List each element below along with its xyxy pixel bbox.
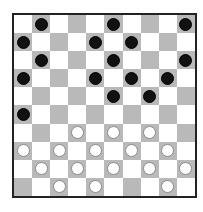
board-square-r0c9[interactable] [177, 15, 195, 33]
black-piece[interactable] [125, 36, 138, 49]
board-square-r2c4 [86, 51, 104, 69]
white-piece[interactable] [143, 162, 156, 175]
board-square-r7c2[interactable] [50, 142, 68, 160]
board-square-r9c8[interactable] [159, 178, 177, 196]
board-square-r4c7[interactable] [141, 87, 159, 105]
board-square-r8c7[interactable] [141, 160, 159, 178]
board-square-r2c5[interactable] [104, 51, 122, 69]
board-square-r2c3[interactable] [68, 51, 86, 69]
white-piece[interactable] [107, 126, 120, 139]
board-square-r0c8 [159, 15, 177, 33]
white-piece[interactable] [107, 162, 120, 175]
white-piece[interactable] [89, 144, 102, 157]
board-square-r8c9[interactable] [177, 160, 195, 178]
white-piece[interactable] [71, 162, 84, 175]
board-square-r4c1[interactable] [32, 87, 50, 105]
black-piece[interactable] [17, 72, 30, 85]
board-square-r6c7[interactable] [141, 124, 159, 142]
board-square-r0c5[interactable] [104, 15, 122, 33]
board-square-r1c8[interactable] [159, 33, 177, 51]
black-piece[interactable] [179, 18, 192, 31]
board-square-r0c7[interactable] [141, 15, 159, 33]
white-piece[interactable] [179, 162, 192, 175]
board-square-r1c4[interactable] [86, 33, 104, 51]
white-piece[interactable] [53, 180, 66, 193]
board-square-r3c9 [177, 69, 195, 87]
board-square-r6c3[interactable] [68, 124, 86, 142]
board-square-r9c7 [141, 178, 159, 196]
board-square-r4c9[interactable] [177, 87, 195, 105]
board-square-r3c1 [32, 69, 50, 87]
board-square-r7c5 [104, 142, 122, 160]
board-square-r0c1[interactable] [32, 15, 50, 33]
board-square-r2c9[interactable] [177, 51, 195, 69]
board-square-r4c5[interactable] [104, 87, 122, 105]
black-piece[interactable] [107, 90, 120, 103]
board-square-r6c1[interactable] [32, 124, 50, 142]
board-square-r9c3 [68, 178, 86, 196]
board-square-r5c4[interactable] [86, 105, 104, 123]
board-square-r5c8[interactable] [159, 105, 177, 123]
white-piece[interactable] [89, 180, 102, 193]
board-square-r1c2[interactable] [50, 33, 68, 51]
board-square-r4c3[interactable] [68, 87, 86, 105]
black-piece[interactable] [107, 18, 120, 31]
board-square-r9c4[interactable] [86, 178, 104, 196]
board-square-r2c0 [14, 51, 32, 69]
board-square-r5c2[interactable] [50, 105, 68, 123]
board-square-r9c0[interactable] [14, 178, 32, 196]
black-piece[interactable] [161, 72, 174, 85]
black-piece[interactable] [107, 54, 120, 67]
board-square-r8c1[interactable] [32, 160, 50, 178]
board-square-r9c6[interactable] [123, 178, 141, 196]
board-square-r6c4 [86, 124, 104, 142]
black-piece[interactable] [179, 54, 192, 67]
white-piece[interactable] [71, 126, 84, 139]
board-square-r1c0[interactable] [14, 33, 32, 51]
board-square-r5c7 [141, 105, 159, 123]
board-square-r3c8[interactable] [159, 69, 177, 87]
board-square-r7c9 [177, 142, 195, 160]
board-square-r2c7[interactable] [141, 51, 159, 69]
board-square-r3c6[interactable] [123, 69, 141, 87]
black-piece[interactable] [17, 108, 30, 121]
board-square-r7c6[interactable] [123, 142, 141, 160]
board-square-r3c7 [141, 69, 159, 87]
black-piece[interactable] [125, 72, 138, 85]
board-square-r5c0[interactable] [14, 105, 32, 123]
board-square-r3c2[interactable] [50, 69, 68, 87]
white-piece[interactable] [161, 144, 174, 157]
white-piece[interactable] [17, 144, 30, 157]
black-piece[interactable] [89, 36, 102, 49]
board-square-r3c0[interactable] [14, 69, 32, 87]
board-square-r2c1[interactable] [32, 51, 50, 69]
board-square-r7c8[interactable] [159, 142, 177, 160]
black-piece[interactable] [35, 18, 48, 31]
white-piece[interactable] [143, 126, 156, 139]
board-square-r1c6[interactable] [123, 33, 141, 51]
board-square-r8c8 [159, 160, 177, 178]
board-square-r9c2[interactable] [50, 178, 68, 196]
board-square-r5c6[interactable] [123, 105, 141, 123]
black-piece[interactable] [35, 54, 48, 67]
board-square-r2c2 [50, 51, 68, 69]
black-piece[interactable] [143, 90, 156, 103]
white-piece[interactable] [125, 144, 138, 157]
board-square-r4c0 [14, 87, 32, 105]
white-piece[interactable] [53, 144, 66, 157]
board-square-r4c6 [123, 87, 141, 105]
board-square-r4c4 [86, 87, 104, 105]
white-piece[interactable] [35, 162, 48, 175]
board-square-r7c3 [68, 142, 86, 160]
board-square-r3c4[interactable] [86, 69, 104, 87]
board-square-r6c5[interactable] [104, 124, 122, 142]
black-piece[interactable] [89, 72, 102, 85]
black-piece[interactable] [17, 36, 30, 49]
board-square-r6c9[interactable] [177, 124, 195, 142]
board-square-r7c4[interactable] [86, 142, 104, 160]
board-square-r8c3[interactable] [68, 160, 86, 178]
board-square-r8c5[interactable] [104, 160, 122, 178]
board-square-r7c0[interactable] [14, 142, 32, 160]
white-piece[interactable] [161, 180, 174, 193]
board-square-r0c3[interactable] [68, 15, 86, 33]
